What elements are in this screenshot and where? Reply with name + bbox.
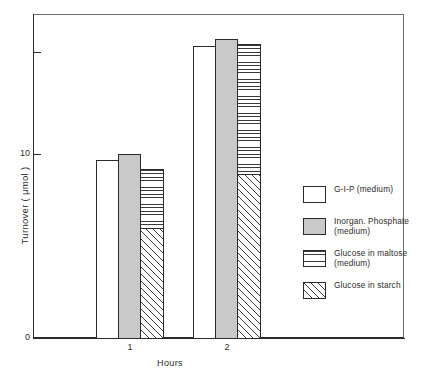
bar-g1p-hour1 bbox=[96, 160, 119, 339]
bar-chart-figure: 0 10 Turnover ( μmol ) Hours 1 2 G-I-P (… bbox=[0, 0, 423, 379]
legend-item-glucose-in-starch: Glucose in starch bbox=[303, 282, 421, 309]
y-tick-upper bbox=[34, 52, 41, 53]
legend-swatch-horizontal-lines-icon bbox=[303, 250, 326, 267]
legend-label-glucose-in-maltose: Glucose in maltose (medium) bbox=[334, 249, 423, 268]
y-tick-0 bbox=[34, 338, 41, 339]
legend-label-inorganic-phosphate-line1: Inorgan. Phosphate bbox=[334, 216, 409, 226]
bar-inorganic-phosphate-hour1 bbox=[118, 154, 141, 339]
y-tick-label-0: 0 bbox=[10, 332, 30, 342]
bar-glucose-in-starch-hour1 bbox=[140, 228, 164, 339]
legend-item-glucose-in-maltose: Glucose in maltose (medium) bbox=[303, 250, 421, 277]
bar-inorganic-phosphate-hour2 bbox=[215, 39, 238, 339]
y-axis-line bbox=[33, 14, 34, 339]
legend-label-glucose-in-starch-line1: Glucose in starch bbox=[334, 280, 401, 290]
x-axis-label: Hours bbox=[0, 358, 340, 368]
y-axis-label: Turnover ( μmol ) bbox=[19, 146, 30, 266]
bar-glucose-in-maltose-hour2 bbox=[237, 44, 261, 175]
x-group-label-1: 1 bbox=[115, 342, 145, 352]
y-tick-10 bbox=[34, 154, 41, 155]
legend-label-glucose-in-maltose-line1: Glucose in maltose bbox=[334, 248, 407, 258]
legend-label-g1p-line1: G-I-P (medium) bbox=[334, 184, 393, 194]
legend-label-glucose-in-starch: Glucose in starch bbox=[334, 281, 423, 291]
x-group-label-2: 2 bbox=[212, 342, 242, 352]
bar-glucose-in-maltose-hour1 bbox=[140, 169, 164, 229]
legend: G-I-P (medium) Inorgan. Phosphate (mediu… bbox=[303, 186, 421, 314]
legend-label-glucose-in-maltose-line2: (medium) bbox=[334, 259, 423, 269]
legend-label-inorganic-phosphate-line2: (medium) bbox=[334, 227, 423, 237]
bar-glucose-in-starch-hour2 bbox=[237, 174, 261, 339]
legend-swatch-diagonal-hatch-icon bbox=[303, 282, 326, 299]
legend-label-g1p: G-I-P (medium) bbox=[334, 185, 423, 195]
legend-swatch-open-icon bbox=[303, 186, 326, 203]
legend-item-inorganic-phosphate: Inorgan. Phosphate (medium) bbox=[303, 218, 421, 245]
legend-swatch-solid-gray-icon bbox=[303, 218, 326, 235]
bar-g1p-hour2 bbox=[193, 46, 216, 339]
faded-page-header bbox=[120, 0, 330, 10]
legend-item-g1p: G-I-P (medium) bbox=[303, 186, 421, 213]
legend-label-inorganic-phosphate: Inorgan. Phosphate (medium) bbox=[334, 217, 423, 236]
